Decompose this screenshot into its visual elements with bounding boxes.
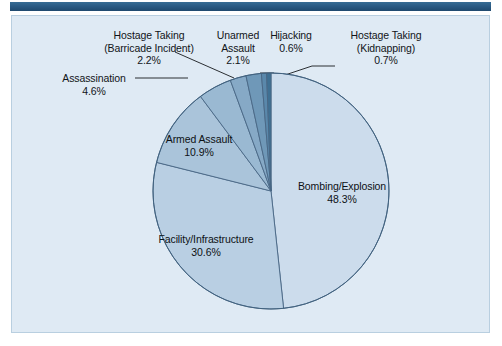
label-hijacking: Hijacking 0.6% [260, 29, 322, 54]
label-facility-infrastructure: Facility/Infrastructure 30.6% [141, 233, 271, 258]
label-assassination-line1: Assassination [62, 72, 125, 84]
label-armed-line1: Armed Assault [166, 133, 232, 145]
label-barricade-line2: (Barricade Incident) [104, 42, 194, 54]
top-rule-decoration [10, 2, 491, 11]
label-hostage-taking-kidnapping: Hostage Taking (Kidnapping) 0.7% [328, 29, 444, 67]
label-hijacking-line1: Hijacking [270, 29, 312, 41]
label-bombing-explosion: Bombing/Explosion 48.3% [285, 180, 399, 205]
label-unarmed-percent: 2.1% [202, 54, 274, 67]
label-barricade-line1: Hostage Taking [114, 29, 185, 41]
label-unarmed-line1: Unarmed [217, 29, 260, 41]
label-unarmed-line2: Assault [221, 42, 255, 54]
pie-chart: Hostage Taking (Barricade Incident) 2.2%… [12, 16, 489, 332]
label-kidnapping-line1: Hostage Taking [351, 29, 422, 41]
screenshot-root: Hostage Taking (Barricade Incident) 2.2%… [0, 0, 502, 346]
label-kidnapping-line2: (Kidnapping) [357, 42, 415, 54]
label-hijacking-percent: 0.6% [260, 42, 322, 55]
label-armed-assault: Armed Assault 10.9% [153, 133, 245, 158]
label-facility-percent: 30.6% [141, 246, 271, 259]
label-armed-percent: 10.9% [153, 146, 245, 159]
chart-panel: Hostage Taking (Barricade Incident) 2.2%… [11, 15, 490, 333]
label-assassination: Assassination 4.6% [52, 72, 136, 97]
label-facility-line1: Facility/Infrastructure [158, 233, 253, 245]
label-kidnapping-percent: 0.7% [328, 54, 444, 67]
label-bombing-percent: 48.3% [285, 193, 399, 206]
label-assassination-percent: 4.6% [52, 85, 136, 98]
label-bombing-line1: Bombing/Explosion [298, 180, 386, 192]
